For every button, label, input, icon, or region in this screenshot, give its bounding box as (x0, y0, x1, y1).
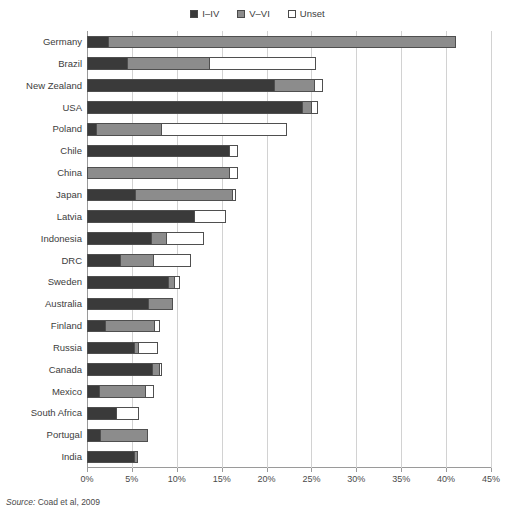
chart-row: Brazil (87, 53, 491, 75)
stacked-bar[interactable] (87, 276, 180, 289)
plot-area: 0%5%10%15%20%25%30%35%40%45%GermanyBrazi… (87, 31, 491, 468)
bar-segment-series-unset[interactable] (161, 123, 288, 136)
bar-segment-series-v-vi[interactable] (120, 254, 154, 267)
bar-segment-series-i-iv[interactable] (87, 36, 109, 49)
bar-segment-series-unset[interactable] (229, 167, 238, 180)
bar-segment-series-v-vi[interactable] (274, 79, 315, 92)
stacked-bar[interactable] (87, 79, 323, 92)
x-tick-label: 5% (125, 474, 138, 484)
x-tick-label: 0% (80, 474, 93, 484)
bar-segment-series-unset[interactable] (314, 79, 323, 92)
bar-segment-series-v-vi[interactable] (127, 57, 211, 70)
stacked-bar[interactable] (87, 385, 154, 398)
bar-segment-series-i-iv[interactable] (87, 232, 152, 245)
category-label: Sweden (7, 271, 87, 293)
legend-item-series-i-iv[interactable]: I–IV (190, 9, 219, 19)
bar-segment-series-i-iv[interactable] (87, 276, 169, 289)
bar-segment-series-unset[interactable] (154, 320, 159, 333)
x-tick-label: 10% (168, 474, 186, 484)
bar-segment-series-unset[interactable] (159, 363, 162, 376)
bar-segment-series-v-vi[interactable] (99, 385, 147, 398)
category-label: USA (7, 97, 87, 119)
chart-row: DRC (87, 250, 491, 272)
bar-segment-series-unset[interactable] (153, 254, 191, 267)
category-label: China (7, 162, 87, 184)
gridline-45 (491, 31, 492, 468)
bar-segment-series-i-iv[interactable] (87, 407, 117, 420)
bar-segment-series-unset[interactable] (138, 342, 158, 355)
stacked-bar[interactable] (87, 189, 236, 202)
stacked-bar[interactable] (87, 298, 173, 311)
x-tick-0 (87, 468, 88, 472)
stacked-bar[interactable] (87, 57, 316, 70)
bar-segment-series-i-iv[interactable] (87, 342, 135, 355)
bar-segment-series-unset[interactable] (232, 189, 236, 202)
chart-row: USA (87, 97, 491, 119)
bar-segment-series-i-iv[interactable] (87, 57, 128, 70)
bar-segment-series-v-vi[interactable] (108, 36, 456, 49)
bar-segment-series-unset[interactable] (116, 407, 139, 420)
bar-segment-series-unset[interactable] (209, 57, 316, 70)
stacked-bar[interactable] (87, 167, 238, 180)
chart-row: China (87, 162, 491, 184)
bar-segment-series-v-vi[interactable] (135, 189, 234, 202)
legend-item-series-v-vi[interactable]: V–VI (237, 9, 270, 19)
bar-segment-series-unset[interactable] (311, 101, 317, 114)
stacked-bar[interactable] (87, 254, 191, 267)
bar-segment-series-v-vi[interactable] (148, 298, 173, 311)
x-tick-label: 40% (437, 474, 455, 484)
chart-row: Canada (87, 359, 491, 381)
chart-legend: I–IVV–VIUnset (0, 6, 515, 22)
bar-segment-series-v-vi[interactable] (87, 167, 230, 180)
bar-segment-series-i-iv[interactable] (87, 210, 195, 223)
stacked-bar[interactable] (87, 123, 287, 136)
stacked-bar[interactable] (87, 232, 204, 245)
bar-segment-series-unset[interactable] (174, 276, 180, 289)
bar-segment-series-i-iv[interactable] (87, 429, 101, 442)
chart-row: India (87, 446, 491, 468)
bar-segment-series-i-iv[interactable] (87, 101, 303, 114)
stacked-bar[interactable] (87, 407, 139, 420)
stacked-bar[interactable] (87, 210, 226, 223)
category-label: Australia (7, 293, 87, 315)
chart-row: Portugal (87, 424, 491, 446)
bar-segment-series-i-iv[interactable] (87, 298, 149, 311)
bar-segment-series-i-iv[interactable] (87, 145, 230, 158)
bar-segment-series-v-vi[interactable] (96, 123, 162, 136)
chart-row: Indonesia (87, 228, 491, 250)
category-label: New Zealand (7, 75, 87, 97)
bar-segment-series-i-iv[interactable] (87, 254, 121, 267)
stacked-bar[interactable] (87, 320, 160, 333)
category-label: Finland (7, 315, 87, 337)
source-label: Source: (6, 497, 35, 507)
category-label: India (7, 446, 87, 468)
bar-segment-series-v-vi[interactable] (151, 232, 167, 245)
bar-segment-series-unset[interactable] (166, 232, 204, 245)
stacked-bar[interactable] (87, 145, 238, 158)
category-label: DRC (7, 250, 87, 272)
stacked-bar[interactable] (87, 101, 318, 114)
chart-row: Germany (87, 31, 491, 53)
bar-segment-series-i-iv[interactable] (87, 451, 135, 464)
bar-segment-series-i-iv[interactable] (87, 320, 106, 333)
bar-segment-series-i-iv[interactable] (87, 363, 153, 376)
x-tick-label: 15% (213, 474, 231, 484)
bar-segment-series-i-iv[interactable] (87, 189, 136, 202)
bar-segment-series-i-iv[interactable] (87, 79, 275, 92)
chart-row: Latvia (87, 206, 491, 228)
bar-segment-series-v-vi[interactable] (100, 429, 149, 442)
stacked-bar[interactable] (87, 342, 158, 355)
legend-item-series-unset[interactable]: Unset (288, 9, 325, 19)
bar-segment-series-unset[interactable] (194, 210, 226, 223)
legend-item-label: V–VI (249, 9, 270, 19)
bar-segment-series-v-vi[interactable] (134, 451, 139, 464)
bar-segment-series-unset[interactable] (145, 385, 154, 398)
stacked-bar[interactable] (87, 429, 148, 442)
bar-segment-series-v-vi[interactable] (105, 320, 155, 333)
bar-segment-series-unset[interactable] (229, 145, 238, 158)
stacked-bar[interactable] (87, 36, 456, 49)
stacked-bar[interactable] (87, 451, 138, 464)
stacked-bar[interactable] (87, 363, 162, 376)
x-tick-40 (446, 468, 447, 472)
category-label: Germany (7, 31, 87, 53)
